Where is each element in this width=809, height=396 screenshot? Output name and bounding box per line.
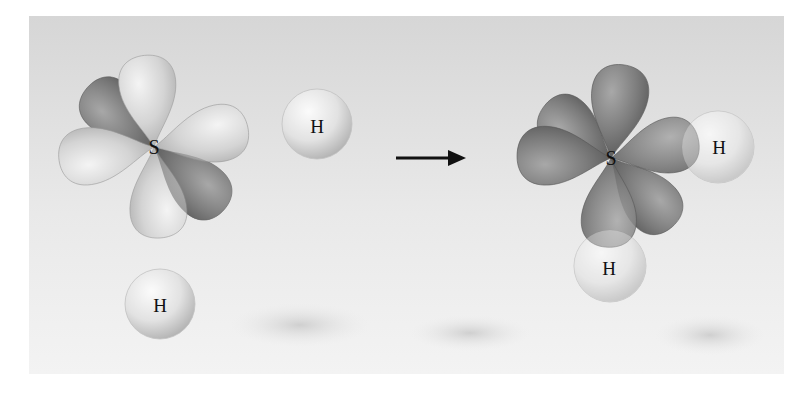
hydrogen-label: H: [153, 295, 167, 316]
reactant-hydrogen-2: H: [125, 269, 195, 339]
sulfur-label-product: S: [605, 147, 616, 169]
hydrogen-label-product-right: H: [712, 137, 726, 158]
hydrogen-label: H: [310, 116, 324, 137]
hydrogen-label-product-bottom: H: [602, 258, 616, 279]
sulfur-label-reactant: S: [148, 136, 159, 158]
orbital-overlap-diagram: S H H: [0, 0, 809, 396]
reactant-hydrogen-1: H: [282, 89, 352, 159]
